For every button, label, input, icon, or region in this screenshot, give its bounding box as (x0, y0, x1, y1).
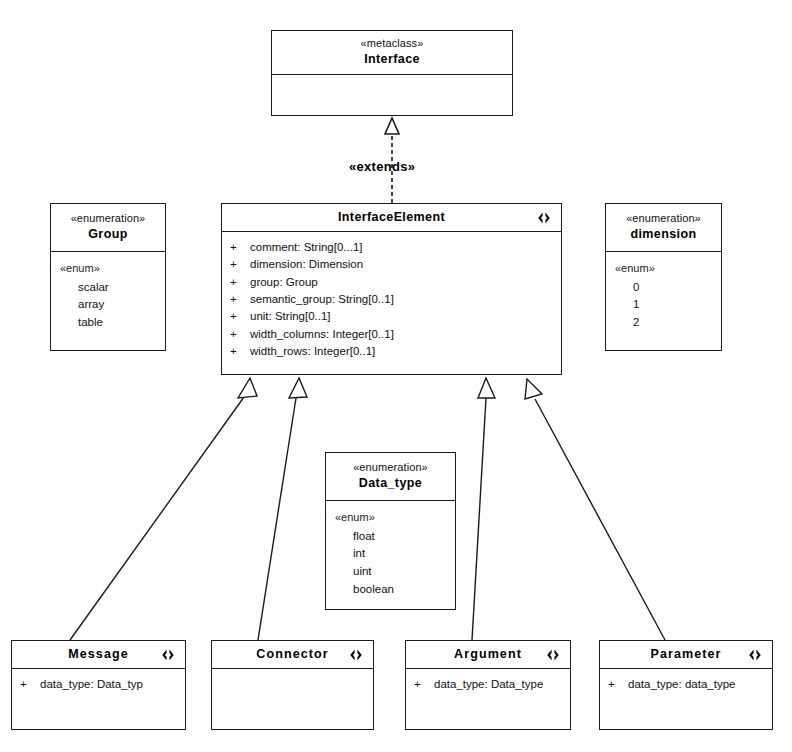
group-enum-stereotype: «enumeration» (55, 212, 161, 226)
class-box-connector[interactable]: Connector (211, 640, 374, 730)
extends-arrowhead (385, 118, 399, 134)
interface-element-name: InterfaceElement (226, 209, 557, 225)
attribute-row: + dimension: Dimension (230, 256, 555, 272)
enum-box-dimension[interactable]: «enumeration» dimension «enum» 0 1 2 (605, 203, 722, 351)
uml-class-diagram: «extends» «metaclass» Interface Interfac… (0, 0, 792, 752)
dimension-enum-name: dimension (610, 226, 717, 242)
attribute-text: width_columns: Integer[0..1] (250, 326, 394, 342)
enum-keyword: «enum» (615, 260, 715, 277)
generalization-arrowhead-argument (478, 378, 495, 398)
interface-header: «metaclass» Interface (272, 31, 512, 75)
attribute-row: + data_type: data_type (608, 676, 766, 692)
enum-literal: uint (335, 563, 449, 580)
interface-name: Interface (276, 51, 508, 67)
attribute-row: + data_type: Data_type (414, 676, 564, 692)
attribute-text: data_type: data_type (628, 676, 735, 692)
data-type-enum-stereotype: «enumeration» (330, 461, 451, 475)
generalization-line-message (70, 397, 244, 640)
visibility-marker: + (230, 291, 250, 307)
visibility-marker: + (230, 256, 250, 272)
interface-attributes (272, 75, 512, 115)
generalization-line-parameter (535, 399, 665, 640)
class-box-message[interactable]: Message + data_type: Data_typ (11, 640, 186, 730)
interface-marker-icon (747, 648, 763, 661)
message-name: Message (16, 646, 181, 662)
connector-header: Connector (212, 641, 373, 669)
attribute-text: data_type: Data_typ (40, 676, 143, 692)
attribute-text: data_type: Data_type (434, 676, 543, 692)
visibility-marker: + (230, 326, 250, 342)
enum-literal: scalar (60, 279, 159, 296)
enum-literal: 1 (615, 296, 715, 313)
group-enum-literals: «enum» scalar array table (51, 252, 165, 350)
interface-marker-icon (348, 648, 364, 661)
connector-attributes (212, 669, 373, 729)
attribute-row: + width_columns: Integer[0..1] (230, 326, 555, 342)
class-box-parameter[interactable]: Parameter + data_type: data_type (599, 640, 773, 730)
generalization-arrowhead-parameter (525, 379, 542, 399)
enum-literal: boolean (335, 581, 449, 598)
attribute-row: + data_type: Data_typ (20, 676, 179, 692)
enum-literal: array (60, 296, 159, 313)
interface-marker-icon (160, 648, 176, 661)
interface-stereotype: «metaclass» (276, 37, 508, 51)
parameter-name: Parameter (604, 646, 768, 662)
attribute-text: width_rows: Integer[0..1] (250, 343, 375, 359)
connector-name: Connector (216, 646, 369, 662)
attribute-text: unit: String[0..1] (250, 308, 331, 324)
enum-literal: 2 (615, 314, 715, 331)
group-enum-name: Group (55, 226, 161, 242)
visibility-marker: + (414, 676, 434, 692)
dimension-enum-literals: «enum» 0 1 2 (606, 252, 721, 350)
data-type-enum-header: «enumeration» Data_type (326, 453, 455, 501)
attribute-text: dimension: Dimension (250, 256, 363, 272)
visibility-marker: + (230, 308, 250, 324)
visibility-marker: + (608, 676, 628, 692)
attribute-text: comment: String[0...1] (250, 239, 363, 255)
enum-literal: 0 (615, 279, 715, 296)
argument-header: Argument (406, 641, 570, 669)
generalization-line-connector (258, 398, 296, 640)
attribute-row: + semantic_group: String[0..1] (230, 291, 555, 307)
extends-label: «extends» (349, 159, 415, 174)
attribute-row: + width_rows: Integer[0..1] (230, 343, 555, 359)
enum-literal: float (335, 528, 449, 545)
attribute-row: + group: Group (230, 274, 555, 290)
visibility-marker: + (230, 239, 250, 255)
class-box-interface[interactable]: «metaclass» Interface (271, 30, 513, 116)
attribute-row: + comment: String[0...1] (230, 239, 555, 255)
attribute-text: semantic_group: String[0..1] (250, 291, 394, 307)
parameter-header: Parameter (600, 641, 772, 669)
attribute-text: group: Group (250, 274, 318, 290)
message-attributes: + data_type: Data_typ (12, 669, 185, 729)
data-type-enum-literals: «enum» float int uint boolean (326, 501, 455, 609)
argument-attributes: + data_type: Data_type (406, 669, 570, 729)
generalization-arrowhead-message (238, 378, 257, 398)
argument-name: Argument (410, 646, 566, 662)
visibility-marker: + (230, 343, 250, 359)
generalization-line-argument (472, 398, 486, 640)
dimension-enum-stereotype: «enumeration» (610, 212, 717, 226)
enum-keyword: «enum» (60, 260, 159, 277)
dimension-enum-header: «enumeration» dimension (606, 204, 721, 252)
data-type-enum-name: Data_type (330, 475, 451, 491)
interface-marker-icon (536, 211, 552, 224)
visibility-marker: + (20, 676, 40, 692)
generalization-arrowhead-connector (289, 378, 307, 398)
interface-marker-icon (545, 648, 561, 661)
group-enum-header: «enumeration» Group (51, 204, 165, 252)
class-box-argument[interactable]: Argument + data_type: Data_type (405, 640, 571, 730)
enum-box-group[interactable]: «enumeration» Group «enum» scalar array … (50, 203, 166, 351)
parameter-attributes: + data_type: data_type (600, 669, 772, 729)
class-box-interface-element[interactable]: InterfaceElement + comment: String[0...1… (221, 203, 562, 375)
enum-literal: table (60, 314, 159, 331)
enum-keyword: «enum» (335, 509, 449, 526)
enum-literal: int (335, 545, 449, 562)
interface-element-header: InterfaceElement (222, 204, 561, 232)
visibility-marker: + (230, 274, 250, 290)
attribute-row: + unit: String[0..1] (230, 308, 555, 324)
interface-element-attributes: + comment: String[0...1] + dimension: Di… (222, 232, 561, 374)
message-header: Message (12, 641, 185, 669)
enum-box-data-type[interactable]: «enumeration» Data_type «enum» float int… (325, 452, 456, 610)
